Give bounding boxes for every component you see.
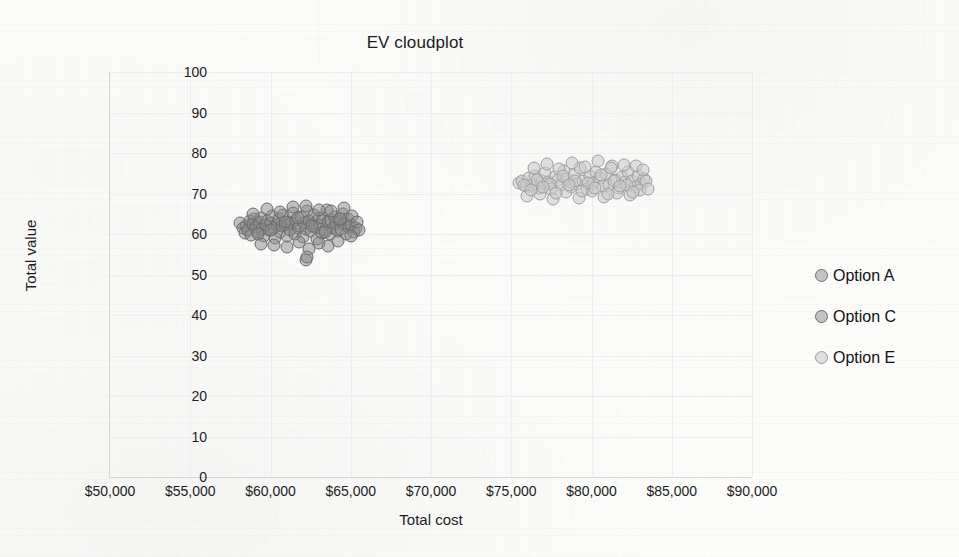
legend-label: Option C [833,308,896,326]
gridline-vertical [431,72,432,477]
legend-marker-icon [815,310,828,323]
data-point [588,181,601,194]
y-tick-label: 50 [147,267,207,283]
x-tick-label: $70,000 [386,483,476,499]
gridline-vertical [511,72,512,477]
data-point [524,184,537,197]
x-tick-label: $75,000 [466,483,556,499]
data-point [540,158,553,171]
data-point [331,235,344,248]
x-tick-label: $65,000 [306,483,396,499]
legend-marker-icon [815,351,828,364]
y-tick-label: 80 [147,145,207,161]
x-tick-label: $85,000 [627,483,717,499]
data-point [251,228,264,241]
data-point [299,199,312,212]
gridline-vertical [752,72,753,477]
y-tick-label: 100 [147,64,207,80]
legend-item-option-e[interactable]: Option E [815,337,896,378]
y-tick-label: 10 [147,429,207,445]
legend-label: Option E [833,349,895,367]
data-point [301,250,314,263]
data-point [579,160,592,173]
gridline-vertical [672,72,673,477]
ev-cloudplot-chart: EV cloudplot Total value Total cost 0102… [0,0,959,557]
x-tick-label: $55,000 [145,483,235,499]
x-tick-label: $60,000 [226,483,316,499]
legend-item-option-c[interactable]: Option C [815,296,896,337]
data-point [306,219,319,232]
data-point [550,186,563,199]
x-axis-title: Total cost [110,511,752,528]
data-point [601,187,614,200]
data-point [291,211,304,224]
legend-label: Option A [833,267,894,285]
data-point [278,215,291,228]
data-point [246,207,259,220]
data-point [527,161,540,174]
data-point [312,203,325,216]
gridline-vertical [271,72,272,477]
x-tick-label: $90,000 [707,483,797,499]
chart-title: EV cloudplot [0,33,830,53]
y-tick-label: 40 [147,307,207,323]
gridline-vertical [592,72,593,477]
x-tick-label: $50,000 [65,483,155,499]
data-point [617,159,630,172]
y-tick-label: 90 [147,105,207,121]
y-axis-line [109,72,110,477]
y-tick-label: 70 [147,186,207,202]
data-point [267,239,280,252]
data-point [595,168,608,181]
data-point [641,182,654,195]
data-point [319,225,332,238]
data-point [563,179,576,192]
data-point [575,185,588,198]
y-tick-label: 30 [147,348,207,364]
data-point [333,213,346,226]
data-point [566,156,579,169]
data-point [261,202,274,215]
data-point [614,180,627,193]
chart-legend: Option AOption COption E [815,255,896,378]
legend-marker-icon [815,269,828,282]
data-point [280,240,293,253]
gridline-vertical [351,72,352,477]
data-point [344,229,357,242]
legend-item-option-a[interactable]: Option A [815,255,896,296]
data-point [627,185,640,198]
y-tick-label: 20 [147,388,207,404]
y-axis-title: Total value [22,166,39,346]
data-point [537,181,550,194]
x-tick-label: $80,000 [547,483,637,499]
data-point [591,155,604,168]
y-tick-label: 60 [147,226,207,242]
data-point [264,223,277,236]
